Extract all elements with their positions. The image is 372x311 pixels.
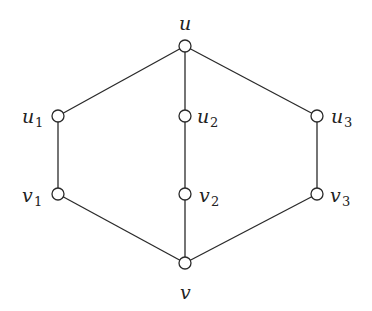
node-u2 [179, 110, 191, 122]
node-v3 [311, 188, 323, 200]
label-v1: v [22, 184, 33, 206]
label-u2-sub: 2 [210, 115, 218, 130]
label-u3-sub: 3 [344, 115, 352, 130]
node-v [179, 257, 191, 269]
node-v1 [52, 188, 64, 200]
node-v2 [179, 188, 191, 200]
label-v3-sub: 3 [342, 194, 350, 209]
label-v2: v [199, 184, 210, 206]
label-v: v [180, 281, 191, 303]
label-v3: v [330, 184, 341, 206]
edge-u-u1 [58, 46, 185, 116]
graph-edges [58, 46, 317, 263]
graph-diagram: u u 1 u 2 u 3 v 1 v 2 v 3 v [0, 0, 372, 311]
label-v2-sub: 2 [211, 194, 219, 209]
graph-nodes [52, 40, 323, 269]
label-u1-sub: 1 [35, 115, 43, 130]
edge-v1-v [58, 194, 185, 263]
node-u [179, 40, 191, 52]
label-u3: u [331, 105, 343, 127]
label-u: u [179, 12, 191, 34]
node-u1 [52, 110, 64, 122]
label-u1: u [22, 105, 34, 127]
node-u3 [311, 110, 323, 122]
label-v1-sub: 1 [34, 194, 42, 209]
label-u2: u [197, 105, 209, 127]
